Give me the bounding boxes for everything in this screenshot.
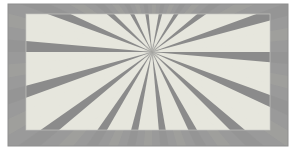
- inner-panel-group: [0, 0, 293, 150]
- sunburst-figure: [0, 0, 293, 150]
- image-canvas: [0, 0, 293, 150]
- center-convergence-smudge: [143, 43, 161, 61]
